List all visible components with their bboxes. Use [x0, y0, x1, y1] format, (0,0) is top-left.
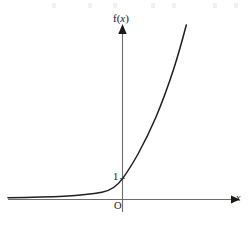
y-intercept-label: 1	[113, 172, 118, 183]
y-axis-label: f(x)	[113, 13, 129, 24]
origin-label: O	[114, 201, 122, 212]
exponential-curve	[8, 25, 186, 198]
y-axis-label-suffix: )	[125, 12, 129, 24]
x-axis-label: x	[236, 193, 240, 203]
figure-container: f(x) x O 1	[0, 0, 249, 228]
arrow-up-icon	[118, 24, 126, 34]
graph-canvas	[0, 0, 249, 228]
